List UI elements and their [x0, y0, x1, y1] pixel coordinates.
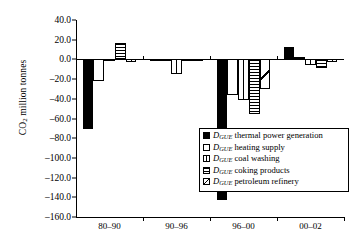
legend-symbol-subscript: GUE	[219, 156, 232, 163]
bar	[327, 59, 338, 61]
legend-item-label: DGUE coal washing	[213, 154, 345, 165]
legend-item-text: thermal power generation	[232, 130, 322, 140]
legend-item: DGUE coal washing	[203, 154, 345, 165]
y-axis-tick-label: 0.0	[25, 54, 76, 64]
legend-swatch-diag	[203, 178, 210, 185]
legend-symbol-subscript: GUE	[219, 168, 232, 175]
bar	[260, 59, 271, 89]
bar	[227, 59, 238, 94]
legend-item-text: coking products	[232, 165, 289, 175]
y-axis-tick-mark	[72, 20, 76, 21]
legend-symbol-d: DGUE	[213, 153, 232, 163]
y-axis-line	[76, 20, 77, 217]
y-axis-tick-label: –60.0	[25, 114, 76, 124]
x-axis-tick-mark	[277, 217, 278, 221]
zero-axis-tick-mark	[76, 56, 77, 59]
bar	[150, 59, 161, 61]
bar	[171, 59, 182, 73]
y-axis-tick-label: –100.0	[25, 153, 76, 163]
y-axis-tick-mark	[72, 138, 76, 139]
y-axis-tick-mark	[72, 39, 76, 40]
y-axis-tick-label: –140.0	[25, 192, 76, 202]
x-axis-tick-mark	[143, 217, 144, 221]
bar	[305, 59, 316, 64]
bar	[316, 59, 327, 68]
legend-symbol-d: DGUE	[213, 142, 232, 152]
y-axis-tick-mark	[72, 197, 76, 198]
y-axis-title-suffix: million tonnes	[18, 60, 28, 119]
bar	[160, 59, 171, 61]
zero-baseline	[76, 59, 344, 60]
bar	[104, 59, 115, 61]
legend-swatch-vsplit	[203, 155, 210, 162]
y-axis-tick-label: –80.0	[25, 133, 76, 143]
y-axis-tick-label: –120.0	[25, 173, 76, 183]
x-axis-tick-label: 90–96	[165, 221, 188, 231]
y-axis-tick-mark	[72, 177, 76, 178]
legend-item-label: DGUE thermal power generation	[213, 131, 345, 142]
y-axis-tick-label: –160.0	[25, 212, 76, 222]
x-axis-tick-mark	[210, 217, 211, 221]
legend-symbol-d: DGUE	[213, 176, 232, 186]
legend-item: DGUE coking products	[203, 166, 345, 177]
bar	[126, 59, 137, 62]
bar-chart: CO2 million tonnes 40.020.00.0–20.0–40.0…	[0, 0, 355, 249]
legend-item-label: DGUE heating supply	[213, 143, 345, 154]
y-axis-tick-label: –40.0	[25, 94, 76, 104]
legend-symbol-d: DGUE	[213, 130, 232, 140]
y-axis-tick-mark	[72, 98, 76, 99]
y-axis-tick-label: 40.0	[25, 15, 76, 25]
legend-symbol-d: DGUE	[213, 165, 232, 175]
legend-swatch-empty	[203, 144, 210, 151]
x-axis-tick-label: 96–00	[232, 221, 255, 231]
bar	[115, 43, 126, 60]
legend-swatch-solid	[203, 132, 210, 139]
x-axis-tick-label: 80–90	[98, 221, 121, 231]
legend-item-text: coal washing	[232, 153, 279, 163]
bar	[284, 47, 295, 60]
legend-item: DGUE heating supply	[203, 143, 345, 154]
y-axis-tick-mark	[72, 118, 76, 119]
legend-item-text: petroleum refinery	[232, 176, 298, 186]
y-axis-tick-label: 20.0	[25, 35, 76, 45]
y-axis-tick-mark	[72, 79, 76, 80]
bar	[193, 59, 204, 61]
zero-axis-tick-mark	[210, 56, 211, 59]
legend-item-label: DGUE coking products	[213, 166, 345, 177]
legend-swatch-hlines	[203, 167, 210, 174]
legend-item-label: DGUE petroleum refinery	[213, 177, 345, 188]
legend-symbol-subscript: GUE	[219, 145, 232, 152]
bar	[238, 59, 249, 99]
bar	[182, 59, 193, 61]
legend-symbol-subscript: GUE	[219, 133, 232, 140]
legend-symbol-subscript: GUE	[219, 179, 232, 186]
bar	[249, 59, 260, 114]
legend-item: DGUE thermal power generation	[203, 131, 345, 142]
x-axis-tick-mark	[344, 217, 345, 221]
bar	[294, 57, 305, 59]
legend-item: DGUE petroleum refinery	[203, 177, 345, 188]
zero-axis-tick-mark	[277, 56, 278, 59]
zero-axis-tick-mark	[143, 56, 144, 59]
y-axis-tick-mark	[72, 157, 76, 158]
bar	[83, 59, 94, 128]
y-axis-tick-label: –20.0	[25, 74, 76, 84]
bar	[93, 59, 104, 81]
y-axis-tick-mark	[72, 217, 76, 218]
x-axis-tick-label: 00–02	[299, 221, 322, 231]
legend-item-text: heating supply	[232, 142, 285, 152]
chart-legend: DGUE thermal power generationDGUE heatin…	[199, 128, 349, 192]
